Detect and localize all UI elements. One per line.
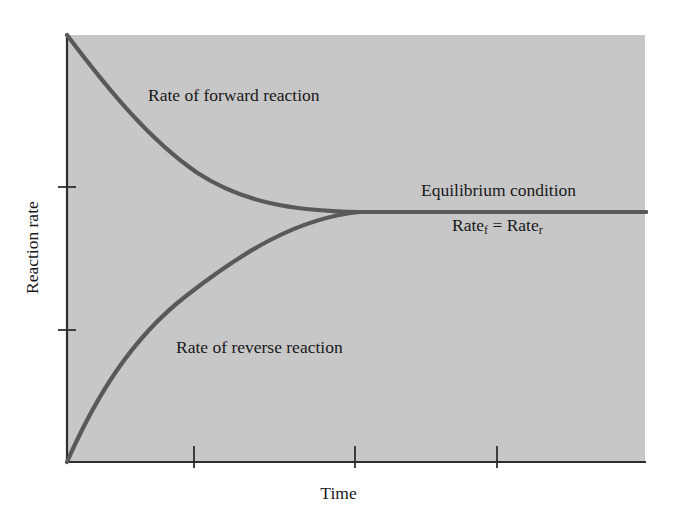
rate-equality-subscript-reverse: r — [539, 223, 543, 237]
rate-equality-operator: = Rate — [488, 215, 539, 235]
reverse-reaction-label: Rate of reverse reaction — [176, 338, 343, 357]
equilibrium-rate-figure: Rate of forward reaction Rate of reverse… — [0, 0, 677, 521]
rate-equality-prefix: Rate — [452, 215, 484, 235]
y-axis-title: Reaction rate — [23, 153, 42, 343]
forward-reaction-label: Rate of forward reaction — [148, 86, 320, 105]
rate-equality-subscript-forward: f — [484, 223, 488, 237]
rate-equality-label: Ratef = Rater — [452, 216, 543, 235]
equilibrium-condition-label: Equilibrium condition — [421, 181, 576, 200]
plot-graphics — [0, 0, 677, 521]
reverse-reaction-curve — [67, 212, 646, 462]
x-axis-title: Time — [0, 484, 677, 503]
